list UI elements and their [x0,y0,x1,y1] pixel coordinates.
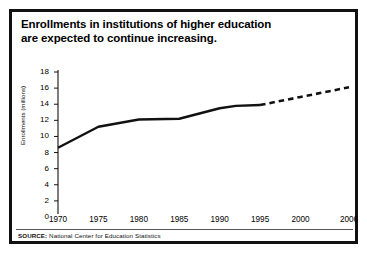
chart-canvas [12,48,361,214]
axes-group [58,70,349,214]
source-text: National Center for Education Statistics [49,232,161,239]
data-series [58,87,349,147]
y-tick-label: 2 [33,197,49,205]
axis-ticks [54,72,349,214]
y-tick-label: 10 [33,132,49,140]
chart-title-line-2: are expected to continue increasing. [21,32,351,46]
source-label: SOURCE: [18,232,47,239]
y-tick-label: 14 [33,100,49,108]
y-tick-label: 16 [33,84,49,92]
source-note: SOURCE: National Center for Education St… [18,232,161,239]
figure-inner: Enrollments in institutions of higher ed… [12,12,355,241]
series-actual [58,105,260,148]
x-tick-label: 1985 [162,215,196,224]
y-tick-label: 18 [33,68,49,76]
x-tick-label: 1975 [81,215,115,224]
y-tick-label: 12 [33,116,49,124]
series-projected [260,87,349,105]
x-tick-label: 1970 [41,215,75,224]
chart-title: Enrollments in institutions of higher ed… [21,18,351,45]
x-tick-label: 1980 [122,215,156,224]
x-tick-label: 2006 [332,215,366,224]
x-tick-labels: 19701975198019851990199520002006 [12,215,361,229]
y-tick-label: 6 [33,165,49,173]
x-tick-label: 2000 [284,215,318,224]
y-axis-label: Enrollments (millions) [19,75,26,157]
plot-area: 024681012141618 Enrollments (millions) [12,48,355,214]
x-tick-label: 1990 [203,215,237,224]
x-tick-label: 1995 [243,215,277,224]
chart-title-line-1: Enrollments in institutions of higher ed… [21,18,351,32]
y-tick-label: 4 [33,181,49,189]
y-tick-label: 8 [33,149,49,157]
source-divider [16,229,353,230]
chart-figure: Enrollments in institutions of higher ed… [9,9,358,244]
